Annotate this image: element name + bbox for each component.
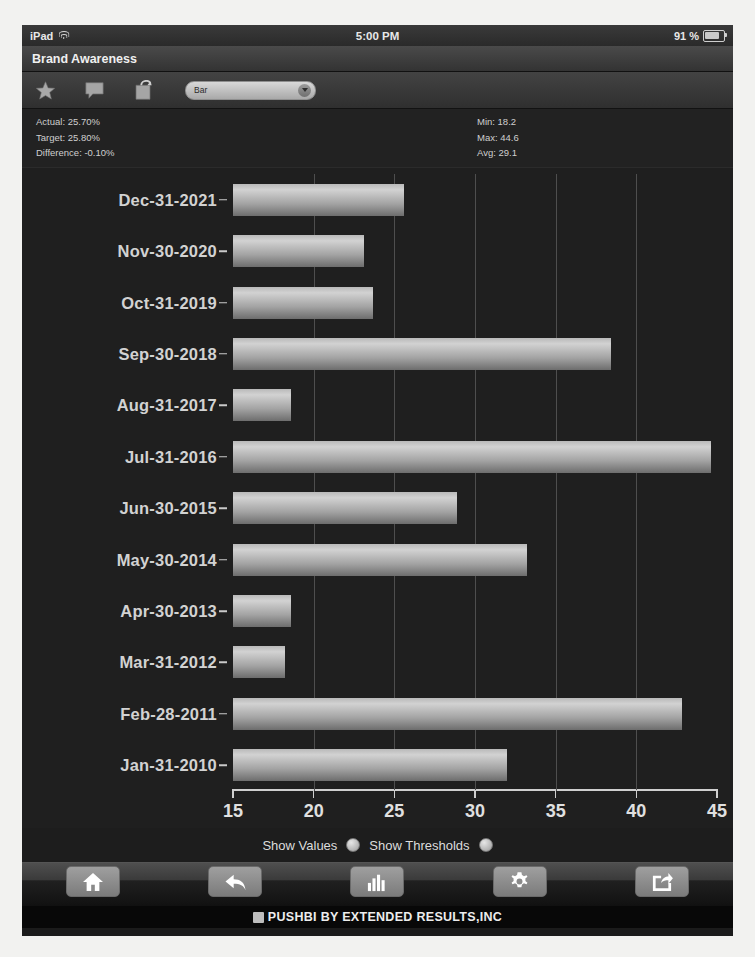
chart-y-tick-label: Mar-31-2012 bbox=[119, 653, 217, 672]
chart-y-tick bbox=[219, 405, 227, 407]
chart-x-tick-label: 30 bbox=[465, 801, 485, 822]
stat-max: Max: 44.6 bbox=[477, 131, 519, 145]
chart-type-value: Bar bbox=[194, 85, 207, 95]
chart-y-tick-label: Jun-30-2015 bbox=[119, 499, 217, 518]
chart-y-tick bbox=[219, 662, 227, 664]
status-bar-right: 91 % bbox=[674, 30, 725, 42]
chart-y-tick-label: Aug-31-2017 bbox=[117, 396, 217, 415]
chart-plot-area: 15202530354045 bbox=[233, 174, 717, 828]
tab-bar bbox=[22, 862, 733, 906]
chevron-down-icon[interactable] bbox=[298, 84, 311, 97]
chart-y-tick-label: Feb-28-2011 bbox=[120, 704, 217, 723]
chart-y-tick bbox=[219, 456, 227, 458]
chart-bar[interactable] bbox=[233, 441, 711, 473]
pushbi-logo-icon bbox=[253, 912, 264, 923]
charts-button[interactable] bbox=[350, 866, 404, 897]
footer-text: PUSHBI BY EXTENDED RESULTS,INC bbox=[268, 910, 502, 924]
chart-bar[interactable] bbox=[233, 338, 611, 370]
chart-bar[interactable] bbox=[233, 492, 457, 524]
chart-y-tick-label: May-30-2014 bbox=[117, 550, 217, 569]
chart-x-tick-label: 40 bbox=[626, 801, 646, 822]
battery-percent-label: 91 % bbox=[674, 30, 699, 42]
chart-y-tick-label: Oct-31-2019 bbox=[121, 293, 217, 312]
battery-icon bbox=[703, 30, 725, 42]
title-bar: Brand Awareness bbox=[22, 46, 733, 72]
chart-bar[interactable] bbox=[233, 235, 364, 267]
chart-x-tick-label: 45 bbox=[707, 801, 727, 822]
show-thresholds-toggle[interactable] bbox=[479, 838, 493, 852]
chart-y-tick bbox=[219, 302, 227, 304]
chart-x-tick-label: 20 bbox=[304, 801, 324, 822]
chart-y-tick bbox=[219, 559, 227, 561]
chart-y-tick bbox=[219, 610, 227, 612]
stats-strip: Actual: 25.70% Target: 25.80% Difference… bbox=[22, 109, 733, 168]
chart-x-tick-label: 15 bbox=[223, 801, 243, 822]
chart-bar[interactable] bbox=[233, 544, 527, 576]
chart-bar[interactable] bbox=[233, 287, 373, 319]
chart-y-tick-label: Nov-30-2020 bbox=[118, 242, 217, 261]
chart-x-tick bbox=[313, 790, 315, 798]
chart-x-tick bbox=[394, 790, 396, 798]
footer-branding: PUSHBI BY EXTENDED RESULTS,INC bbox=[22, 906, 733, 928]
bar-chart-icon bbox=[366, 872, 388, 892]
home-icon bbox=[82, 872, 104, 892]
status-bar: iPad 5:00 PM 91 % bbox=[22, 25, 733, 46]
share-icon bbox=[651, 872, 673, 892]
settings-button[interactable] bbox=[493, 866, 547, 897]
chart-bar[interactable] bbox=[233, 595, 291, 627]
chart-y-tick-label: Sep-30-2018 bbox=[118, 344, 217, 363]
show-thresholds-label: Show Thresholds bbox=[369, 838, 469, 853]
chart-x-tick bbox=[636, 790, 638, 798]
stat-target: Target: 25.80% bbox=[36, 131, 115, 145]
ipad-screen: iPad 5:00 PM 91 % Brand Awareness bbox=[22, 25, 733, 936]
chart-y-tick-label: Dec-31-2021 bbox=[118, 190, 217, 209]
chart-y-tick-label: Jan-31-2010 bbox=[120, 756, 217, 775]
stat-avg: Avg: 29.1 bbox=[477, 146, 519, 160]
chart-y-tick bbox=[219, 199, 227, 201]
chart-y-tick-label: Apr-30-2013 bbox=[120, 602, 217, 621]
chart-x-tick bbox=[232, 789, 234, 798]
star-icon[interactable] bbox=[34, 79, 56, 101]
show-values-label: Show Values bbox=[262, 838, 337, 853]
back-button[interactable] bbox=[208, 866, 262, 897]
back-arrow-icon bbox=[224, 872, 247, 892]
chart-x-tick-label: 35 bbox=[546, 801, 566, 822]
chart-x-tick-label: 25 bbox=[384, 801, 404, 822]
chart-bar[interactable] bbox=[233, 184, 404, 216]
chart-y-axis: Dec-31-2021Nov-30-2020Oct-31-2019Sep-30-… bbox=[22, 174, 227, 828]
chart-y-tick bbox=[219, 765, 227, 767]
toolbar: Bar bbox=[22, 72, 733, 109]
chart-x-tick bbox=[716, 789, 718, 798]
share-button[interactable] bbox=[635, 866, 689, 897]
stat-actual: Actual: 25.70% bbox=[36, 115, 115, 129]
chart-y-tick bbox=[219, 713, 227, 715]
comment-icon[interactable] bbox=[83, 79, 105, 101]
chart-bar[interactable] bbox=[233, 646, 285, 678]
stats-right-column: Min: 18.2 Max: 44.6 Avg: 29.1 bbox=[477, 115, 519, 160]
chart-bar[interactable] bbox=[233, 698, 682, 730]
stat-min: Min: 18.2 bbox=[477, 115, 519, 129]
bar-chart: Dec-31-2021Nov-30-2020Oct-31-2019Sep-30-… bbox=[22, 168, 733, 828]
gear-icon bbox=[509, 871, 530, 892]
stats-left-column: Actual: 25.70% Target: 25.80% Difference… bbox=[36, 115, 115, 167]
show-values-toggle[interactable] bbox=[346, 838, 360, 852]
chart-y-tick-label: Jul-31-2016 bbox=[125, 447, 217, 466]
note-icon[interactable] bbox=[132, 79, 154, 101]
chart-bar[interactable] bbox=[233, 389, 291, 421]
chart-y-tick bbox=[219, 353, 227, 355]
chart-x-tick bbox=[474, 790, 476, 798]
chart-x-tick bbox=[555, 790, 557, 798]
clock-label: 5:00 PM bbox=[22, 30, 733, 42]
chart-bar[interactable] bbox=[233, 749, 507, 781]
chart-options-row: Show Values Show Thresholds bbox=[22, 828, 733, 862]
home-button[interactable] bbox=[66, 866, 120, 897]
chart-y-tick bbox=[219, 507, 227, 509]
page-title: Brand Awareness bbox=[32, 52, 137, 66]
chart-type-select[interactable]: Bar bbox=[185, 81, 316, 100]
stat-difference: Difference: -0.10% bbox=[36, 146, 115, 160]
chart-y-tick bbox=[219, 250, 227, 252]
